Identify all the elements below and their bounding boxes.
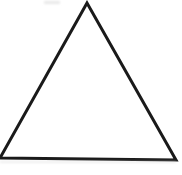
triangle-figure (0, 0, 182, 175)
triangle-outline (0, 3, 176, 160)
image-canvas (0, 0, 182, 175)
